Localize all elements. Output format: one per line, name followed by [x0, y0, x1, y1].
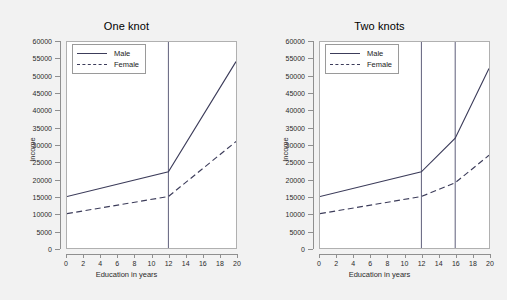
x-axis-tick-label: 16 — [199, 260, 207, 267]
series-line-female — [67, 142, 236, 214]
x-axis-tick-label: 20 — [486, 260, 494, 267]
x-axis-tick — [405, 254, 406, 258]
y-axis-tick-label: 25000 — [0, 159, 52, 166]
x-axis-tick — [169, 254, 170, 258]
x-axis-title: Education in years — [0, 270, 253, 279]
y-axis-title: Income — [28, 137, 37, 162]
y-axis-tick — [308, 41, 313, 42]
y-axis-tick-label: 10000 — [0, 211, 52, 218]
legend-label-female: Female — [367, 60, 392, 69]
y-axis-tick-label: 50000 — [253, 72, 305, 79]
y-axis-tick-label: 0 — [253, 246, 305, 253]
y-axis-tick — [55, 145, 60, 146]
x-axis-tick-label: 20 — [233, 260, 241, 267]
y-axis-tick — [55, 249, 60, 250]
x-axis-tick — [237, 254, 238, 258]
legend-line-solid-icon — [330, 53, 360, 54]
y-axis-tick-label: 50000 — [0, 72, 52, 79]
y-axis-tick — [55, 180, 60, 181]
x-axis-tick-label: 8 — [132, 260, 136, 267]
y-axis-tick — [55, 232, 60, 233]
series-line-female — [320, 155, 489, 213]
y-axis-line — [60, 41, 61, 249]
legend-line-solid-icon — [77, 53, 107, 54]
y-axis-tick-label: 40000 — [253, 107, 305, 114]
x-axis-tick-label: 6 — [115, 260, 119, 267]
y-axis-tick-label: 15000 — [0, 194, 52, 201]
y-axis-tick-label: 55000 — [0, 55, 52, 62]
x-axis-tick-label: 0 — [64, 260, 68, 267]
x-axis-tick — [83, 254, 84, 258]
y-axis-tick — [308, 93, 313, 94]
y-axis-tick — [308, 162, 313, 163]
legend-line-dashed-icon — [77, 64, 107, 65]
x-axis-tick-label: 6 — [368, 260, 372, 267]
x-axis-tick-label: 18 — [469, 260, 477, 267]
x-axis-tick-label: 14 — [182, 260, 190, 267]
y-axis-tick — [308, 128, 313, 129]
y-axis-tick — [55, 93, 60, 94]
y-axis-tick — [308, 249, 313, 250]
y-axis-tick — [55, 110, 60, 111]
y-axis-tick-label: 60000 — [0, 38, 52, 45]
y-axis-tick-label: 30000 — [253, 142, 305, 149]
series-line-male — [67, 62, 236, 197]
legend-item-female: Female — [77, 59, 139, 70]
y-axis-tick-label: 45000 — [253, 90, 305, 97]
x-axis-tick — [66, 254, 67, 258]
y-axis-tick — [55, 41, 60, 42]
y-axis-tick — [308, 76, 313, 77]
y-axis-tick-label: 5000 — [253, 228, 305, 235]
panel-one-knot: One knot 0500010000150002000025000300003… — [0, 0, 253, 300]
panel-title: One knot — [0, 20, 253, 32]
y-axis-tick-label: 45000 — [0, 90, 52, 97]
x-axis-tick — [422, 254, 423, 258]
x-axis-tick — [100, 254, 101, 258]
y-axis-tick — [308, 232, 313, 233]
x-axis-tick — [456, 254, 457, 258]
y-axis-title: Income — [281, 137, 290, 162]
x-axis-tick-label: 16 — [452, 260, 460, 267]
y-axis-tick — [308, 214, 313, 215]
x-axis-tick — [336, 254, 337, 258]
y-axis-tick-label: 25000 — [253, 159, 305, 166]
y-axis-tick-label: 35000 — [253, 124, 305, 131]
x-axis-tick — [152, 254, 153, 258]
x-axis-tick — [490, 254, 491, 258]
panel-two-knots: Two knots 050001000015000200002500030000… — [253, 0, 506, 300]
y-axis-tick — [308, 197, 313, 198]
y-axis-tick — [308, 145, 313, 146]
x-axis-tick-label: 4 — [98, 260, 102, 267]
legend-label-male: Male — [367, 49, 383, 58]
y-axis-tick — [308, 180, 313, 181]
y-axis-tick-label: 40000 — [0, 107, 52, 114]
x-axis-tick — [319, 254, 320, 258]
x-axis-tick-label: 4 — [351, 260, 355, 267]
panel-title: Two knots — [253, 20, 506, 32]
y-axis-tick — [55, 214, 60, 215]
y-axis-tick-label: 5000 — [0, 228, 52, 235]
x-axis-tick-label: 18 — [216, 260, 224, 267]
y-axis-tick-label: 20000 — [253, 176, 305, 183]
legend: Male Female — [325, 44, 399, 74]
y-axis-tick — [55, 128, 60, 129]
y-axis-tick — [55, 58, 60, 59]
y-axis-tick-label: 55000 — [253, 55, 305, 62]
y-axis-tick-label: 10000 — [253, 211, 305, 218]
legend-item-female: Female — [330, 59, 392, 70]
x-axis-title: Education in years — [253, 270, 506, 279]
x-axis-tick-label: 8 — [385, 260, 389, 267]
x-axis-tick-label: 10 — [148, 260, 156, 267]
x-axis-tick-label: 12 — [165, 260, 173, 267]
y-axis-tick-label: 30000 — [0, 142, 52, 149]
x-axis-tick — [203, 254, 204, 258]
y-axis-tick-label: 60000 — [253, 38, 305, 45]
x-axis-tick-label: 12 — [418, 260, 426, 267]
x-axis-tick — [387, 254, 388, 258]
x-axis-tick — [439, 254, 440, 258]
legend-label-male: Male — [114, 49, 130, 58]
x-axis-tick — [370, 254, 371, 258]
y-axis-tick-label: 35000 — [0, 124, 52, 131]
y-axis-tick-label: 15000 — [253, 194, 305, 201]
series-line-male — [320, 68, 489, 196]
